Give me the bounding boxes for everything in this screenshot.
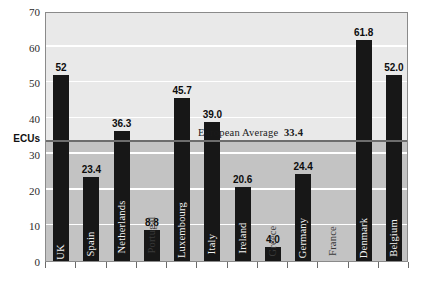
european-average-label: European Average 33.4	[198, 127, 303, 138]
bar-group: 36.3Netherlands	[107, 12, 137, 261]
bar-value-label: 39.0	[203, 109, 222, 120]
european-average-text: European Average	[198, 127, 278, 138]
x-tick	[317, 262, 318, 268]
bar-group: 52.0Belgium	[379, 12, 408, 261]
european-average-line	[46, 140, 407, 142]
bar-value-label: 23.4	[82, 164, 101, 175]
x-tick	[136, 262, 137, 268]
x-tick	[106, 262, 107, 268]
y-tick-label: 40	[0, 113, 40, 125]
bar-value-label: 61.8	[354, 27, 373, 38]
bar-chart: 010203040506070 ECUs 52UK23.4Spain36.3Ne…	[0, 0, 425, 285]
x-tick	[287, 262, 288, 268]
european-average-value: 33.4	[284, 127, 303, 138]
bar-value-label: 52.0	[384, 62, 403, 73]
x-tick	[227, 262, 228, 268]
bar-value-label: 24.4	[293, 161, 312, 172]
y-tick-label: 70	[0, 6, 40, 18]
x-tick	[45, 262, 46, 268]
bar-value-label: 52	[56, 62, 67, 73]
x-tick	[408, 262, 409, 268]
bar[interactable]	[53, 75, 69, 261]
bar-group: 23.4Spain	[76, 12, 106, 261]
x-tick	[378, 262, 379, 268]
y-tick-label: 0	[0, 256, 40, 268]
y-tick-label: 30	[0, 149, 40, 161]
bar-value-label: 45.7	[172, 85, 191, 96]
x-axis	[45, 262, 408, 270]
x-tick	[75, 262, 76, 268]
x-tick	[348, 262, 349, 268]
bar-group: France	[318, 12, 348, 261]
y-axis-title: ECUs	[0, 133, 40, 144]
y-tick-label: 10	[0, 220, 40, 232]
bar-value-label: 36.3	[112, 118, 131, 129]
bar-group: 61.8Denmark	[349, 12, 379, 261]
x-tick	[166, 262, 167, 268]
x-tick	[196, 262, 197, 268]
plot-area: 52UK23.4Spain36.3Netherlands8.8Portugal4…	[45, 12, 408, 262]
bar-value-label: 20.6	[233, 174, 252, 185]
y-tick-label: 50	[0, 77, 40, 89]
y-tick-label: 60	[0, 42, 40, 54]
bar-group: 45.7Luxembourg	[167, 12, 197, 261]
x-tick	[257, 262, 258, 268]
y-tick-label: 20	[0, 185, 40, 197]
bar-group: 8.8Portugal	[137, 12, 167, 261]
bar-group: 52UK	[46, 12, 76, 261]
